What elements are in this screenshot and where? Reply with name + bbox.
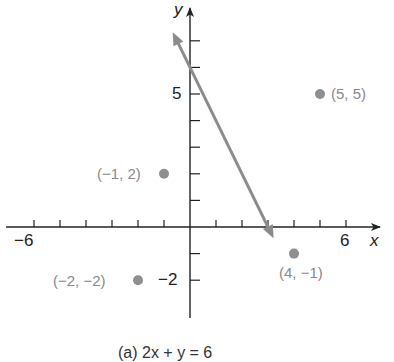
x-tick-label-6: 6 xyxy=(340,231,349,251)
data-point xyxy=(159,169,169,179)
point-label-5-5: (5, 5) xyxy=(331,85,366,102)
point-label-neg2-neg2: (−2, −2) xyxy=(53,272,106,289)
y-axis-label: y xyxy=(174,0,183,20)
points xyxy=(133,89,325,285)
figure-caption: (a) 2x + y = 6 xyxy=(118,344,212,362)
data-point xyxy=(289,249,299,259)
data-point xyxy=(315,89,325,99)
y-tick-label-neg2: −2 xyxy=(158,270,177,290)
x-tick-label-neg6: −6 xyxy=(14,231,33,251)
point-label-neg1-2: (−1, 2) xyxy=(97,165,141,182)
y-tick-label-5: 5 xyxy=(172,84,181,104)
x-axis-label: x xyxy=(370,231,379,251)
data-point xyxy=(133,275,143,285)
point-label-4-neg1: (4, −1) xyxy=(279,264,323,281)
